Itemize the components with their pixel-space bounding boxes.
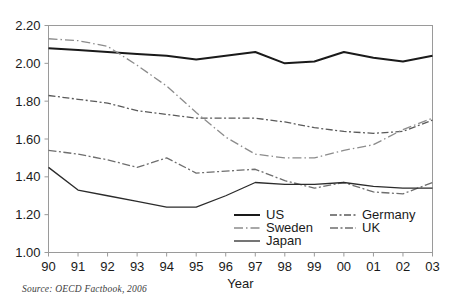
y-tick-label: 1.00 <box>15 245 40 260</box>
x-tick-label: 95 <box>189 259 203 274</box>
x-tick-label: 02 <box>396 259 410 274</box>
y-tick-label: 1.80 <box>15 94 40 109</box>
legend-label-japan: Japan <box>266 233 301 248</box>
source-note: Source: OECD Factbook, 2006 <box>22 284 147 294</box>
x-tick-label: 01 <box>366 259 380 274</box>
x-tick-label: 99 <box>307 259 321 274</box>
y-tick-label: 2.20 <box>15 18 40 33</box>
y-tick-label: 1.60 <box>15 132 40 147</box>
line-chart-figure: 1.001.201.401.601.802.002.20 90919293949… <box>0 0 456 305</box>
x-tick-label: 00 <box>337 259 351 274</box>
y-tick-label: 1.20 <box>15 207 40 222</box>
x-tick-label: 90 <box>41 259 55 274</box>
chart-canvas: 1.001.201.401.601.802.002.20 90919293949… <box>0 0 456 305</box>
x-tick-label: 97 <box>248 259 262 274</box>
x-tick-label: 91 <box>71 259 85 274</box>
x-axis-title: Year <box>227 276 254 291</box>
x-tick-label: 93 <box>130 259 144 274</box>
legend-label-uk: UK <box>362 220 380 235</box>
y-tick-label: 1.40 <box>15 169 40 184</box>
x-tick-label: 96 <box>218 259 232 274</box>
x-tick-label: 94 <box>159 259 173 274</box>
x-axis-title-text: Year <box>227 276 254 291</box>
y-axis: 1.001.201.401.601.802.002.20 <box>15 18 48 260</box>
x-tick-label: 92 <box>100 259 114 274</box>
x-tick-label: 98 <box>278 259 292 274</box>
x-axis: 9091929394959697989900010203 <box>41 253 439 274</box>
y-tick-label: 2.00 <box>15 56 40 71</box>
x-tick-label: 03 <box>425 259 439 274</box>
